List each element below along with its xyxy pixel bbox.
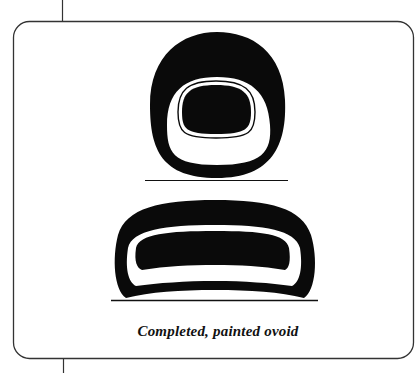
figure-caption: Completed, painted ovoid [0,323,416,340]
ovoid-diagram [0,0,416,373]
wide-ovoid [115,200,315,298]
tall-ovoid [150,32,285,178]
figure-page: Completed, painted ovoid [0,0,416,373]
